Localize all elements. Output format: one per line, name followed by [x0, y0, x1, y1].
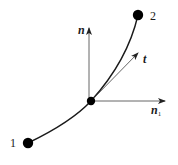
- node-2-label: 2: [150, 9, 156, 23]
- node-2-dot: [133, 10, 143, 20]
- node-1-label: 1: [10, 136, 16, 150]
- curve-frame-diagram: 1 2 n t n1: [0, 0, 178, 165]
- binormal-label-subscript: 1: [158, 110, 162, 118]
- node-1-dot: [23, 138, 33, 148]
- node-mid-dot: [87, 97, 95, 105]
- binormal-label: n1: [151, 103, 162, 118]
- tangent-vector-arrow: [91, 53, 138, 101]
- normal-label: n: [78, 23, 85, 37]
- tangent-label: t: [143, 52, 147, 66]
